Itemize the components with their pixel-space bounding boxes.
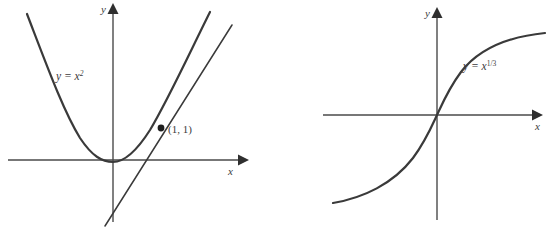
panel-cube-root: x y y = x1/3 [277,0,554,231]
math-figure: x y (1, 1) y = x2 x [0,0,554,231]
y-axis-arrowhead [108,3,119,14]
y-axis-label: y [100,3,106,15]
x-axis-arrowhead [238,155,249,166]
x-axis-label: x [227,165,233,177]
y-axis-label: y [424,7,430,19]
cube-root-curve [333,33,545,203]
cube-root-equation-base: y = x [462,60,488,73]
x-axis-label: x [534,120,540,132]
y-axis-arrowhead [432,7,443,18]
tangent-point-label: (1, 1) [168,123,192,136]
cube-root-equation-exponent: 1/3 [487,59,497,68]
panel-parabola: x y (1, 1) y = x2 [0,0,277,231]
parabola-curve [27,12,210,162]
tangent-point-marker [158,125,165,132]
parabola-plot: x y (1, 1) y = x2 [0,0,277,231]
cube-root-plot: x y y = x1/3 [277,0,554,231]
parabola-equation-label: y = x2 [55,69,84,83]
cube-root-equation-label: y = x1/3 [462,59,497,73]
x-axis-arrowhead [532,110,543,121]
parabola-equation-base: y = x [55,70,81,83]
parabola-equation-exponent: 2 [80,69,84,78]
